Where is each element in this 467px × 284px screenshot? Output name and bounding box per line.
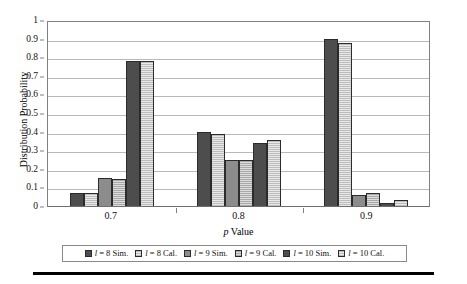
x-tick-label: 0.7	[47, 210, 175, 226]
bar[interactable]	[140, 61, 154, 206]
bar[interactable]	[211, 134, 225, 206]
bar[interactable]	[84, 193, 98, 206]
legend-label: l = 9 Cal.	[245, 249, 277, 258]
bar[interactable]	[70, 193, 84, 206]
bar[interactable]	[225, 160, 239, 206]
legend-swatch-icon	[85, 250, 92, 257]
y-tick-mark	[40, 114, 44, 115]
y-tick-mark	[40, 188, 44, 189]
x-tick-label: 0.8	[175, 210, 303, 226]
bar-group	[302, 22, 429, 206]
bar[interactable]	[338, 43, 352, 206]
legend-label: l = 8 Cal.	[145, 249, 177, 258]
y-tick-mark	[40, 21, 44, 22]
x-tick-label: 0.9	[302, 210, 430, 226]
bar[interactable]	[394, 200, 408, 206]
y-tick-label: 0	[33, 202, 38, 212]
legend-label: l = 8 Sim.	[95, 249, 129, 258]
bars-layer	[48, 22, 429, 206]
legend-swatch-icon	[283, 250, 290, 257]
bar-group	[175, 22, 302, 206]
y-tick-mark	[40, 132, 44, 133]
x-axis-tick-labels: 0.70.80.9	[47, 210, 430, 226]
legend-item[interactable]: l = 9 Cal.	[235, 249, 277, 258]
bar-group	[48, 22, 175, 206]
y-tick-mark	[40, 169, 44, 170]
legend-item[interactable]: l = 8 Sim.	[85, 249, 129, 258]
y-tick-mark	[40, 95, 44, 96]
bar[interactable]	[239, 160, 253, 207]
bar[interactable]	[253, 143, 267, 206]
legend-label: l = 10 Cal.	[348, 249, 384, 258]
legend-swatch-icon	[184, 250, 191, 257]
figure-container: 00.10.20.30.40.50.60.70.80.91 Distributi…	[0, 0, 467, 284]
legend-swatch-icon	[135, 250, 142, 257]
y-tick-label: 1	[33, 16, 38, 26]
bar[interactable]	[352, 195, 366, 206]
legend-label: l = 10 Sim.	[293, 249, 331, 258]
bottom-rule	[33, 272, 434, 275]
y-tick-mark	[40, 207, 44, 208]
y-tick-mark	[40, 76, 44, 77]
bar[interactable]	[324, 39, 338, 206]
legend-swatch-icon	[235, 250, 242, 257]
y-tick-mark	[40, 151, 44, 152]
bar[interactable]	[112, 179, 126, 206]
legend-swatch-icon	[338, 250, 345, 257]
x-axis-title-rest: Value	[228, 226, 253, 237]
bar[interactable]	[267, 140, 281, 206]
x-axis-title: p Value	[47, 226, 430, 237]
legend: l = 8 Sim.l = 8 Cal.l = 9 Sim.l = 9 Cal.…	[62, 245, 407, 262]
y-tick-mark	[40, 58, 44, 59]
bar[interactable]	[380, 203, 394, 206]
bar[interactable]	[98, 178, 112, 206]
legend-item[interactable]: l = 9 Sim.	[184, 249, 228, 258]
y-tick-mark	[40, 39, 44, 40]
legend-label: l = 9 Sim.	[194, 249, 228, 258]
y-axis-title: Distribution Probability	[18, 35, 29, 205]
plot-area	[47, 21, 430, 207]
bar[interactable]	[126, 61, 140, 206]
bar[interactable]	[197, 132, 211, 206]
legend-item[interactable]: l = 8 Cal.	[135, 249, 177, 258]
legend-item[interactable]: l = 10 Sim.	[283, 249, 331, 258]
bar[interactable]	[366, 193, 380, 206]
legend-item[interactable]: l = 10 Cal.	[338, 249, 384, 258]
